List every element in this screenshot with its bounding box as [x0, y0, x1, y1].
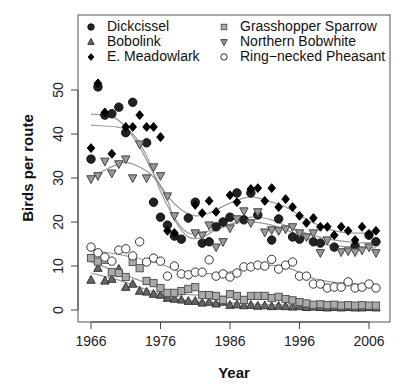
data-point: [122, 273, 129, 280]
data-point: [247, 220, 255, 228]
data-point: [337, 222, 345, 231]
data-point: [310, 301, 317, 308]
legend-label: Ring−necked Pheasant: [240, 48, 385, 64]
data-point: [87, 176, 95, 184]
data-point: [233, 189, 241, 197]
x-tick-label: 1966: [75, 333, 106, 349]
data-point: [157, 133, 165, 142]
data-point: [170, 262, 178, 270]
legend-item: Northern Bobwhite: [221, 33, 356, 49]
data-point: [302, 272, 310, 280]
x-tick-label: 1976: [145, 333, 176, 349]
data-point: [87, 243, 95, 251]
y-tick-label: 10: [50, 258, 66, 274]
data-point: [150, 280, 157, 287]
legend-item: Bobolink: [88, 33, 162, 49]
legend-label: Northern Bobwhite: [240, 33, 356, 49]
data-point: [331, 301, 338, 308]
data-point: [358, 222, 366, 231]
data-point: [129, 175, 137, 183]
data-point: [226, 225, 234, 233]
data-point: [198, 268, 206, 276]
data-point: [330, 231, 338, 240]
data-point: [282, 195, 290, 204]
data-point: [275, 293, 282, 300]
data-point: [261, 292, 268, 299]
data-point: [156, 257, 164, 265]
data-point: [324, 302, 331, 309]
data-point: [233, 292, 240, 299]
data-point: [171, 289, 178, 296]
x-tick-label: 1996: [284, 333, 315, 349]
data-point: [274, 215, 282, 223]
data-point: [226, 291, 233, 298]
data-point: [372, 302, 379, 309]
data-point: [268, 236, 276, 244]
legend-marker-icon: [88, 38, 94, 44]
data-point: [108, 149, 116, 158]
data-point: [135, 238, 143, 246]
x-axis: 19661976198619962006: [75, 322, 384, 349]
legend-label: Bobolink: [107, 33, 162, 49]
data-points: [87, 79, 380, 311]
legend-marker-icon: [88, 54, 94, 61]
data-point: [240, 208, 248, 216]
data-point: [185, 285, 192, 292]
data-point: [108, 170, 116, 178]
data-point: [233, 269, 241, 277]
bird-abundance-chart: 19661976198619962006 01020304050 Year Bi…: [0, 0, 410, 389]
data-point: [177, 235, 185, 243]
data-point: [199, 291, 206, 298]
data-point: [122, 245, 130, 253]
data-point: [87, 144, 95, 153]
legend-marker-icon: [88, 24, 94, 30]
data-point: [288, 258, 296, 266]
data-point: [358, 247, 366, 255]
data-point: [108, 269, 115, 276]
data-point: [115, 103, 123, 111]
data-point: [365, 302, 372, 309]
data-point: [303, 300, 310, 307]
data-point: [296, 299, 303, 306]
data-point: [219, 296, 226, 303]
x-tick-label: 1986: [214, 333, 245, 349]
y-tick-label: 50: [50, 82, 66, 98]
data-point: [316, 239, 324, 247]
x-axis-title: Year: [218, 364, 250, 381]
data-point: [289, 203, 297, 212]
data-point: [156, 173, 164, 181]
data-point: [338, 302, 345, 309]
legend-marker-icon: [221, 54, 227, 60]
data-point: [372, 250, 380, 258]
data-point: [205, 196, 213, 205]
legend-item: Ring−necked Pheasant: [221, 48, 385, 64]
y-tick-label: 40: [50, 126, 66, 142]
data-point: [136, 265, 143, 272]
data-point: [170, 213, 178, 221]
data-point: [351, 249, 359, 257]
data-point: [94, 258, 101, 265]
data-point: [317, 301, 324, 308]
data-point: [142, 139, 150, 147]
data-point: [129, 123, 137, 132]
data-point: [205, 256, 213, 264]
legend-marker-icon: [221, 40, 227, 46]
data-point: [87, 255, 94, 262]
y-axis: 01020304050: [50, 82, 78, 314]
legend-label: Dickcissel: [107, 18, 169, 34]
data-point: [101, 158, 109, 166]
data-point: [289, 297, 296, 304]
data-point: [345, 302, 352, 309]
data-point: [136, 111, 144, 120]
data-point: [337, 249, 345, 257]
y-axis-title: Birds per route: [19, 114, 36, 222]
legend-label: Grasshopper Sparrow: [240, 18, 378, 34]
data-point: [192, 284, 199, 291]
data-point: [129, 252, 137, 260]
data-point: [157, 284, 164, 291]
data-point: [87, 155, 95, 163]
legend-marker-icon: [221, 24, 226, 29]
data-point: [156, 213, 164, 221]
data-point: [274, 228, 282, 236]
y-tick-label: 20: [50, 214, 66, 230]
